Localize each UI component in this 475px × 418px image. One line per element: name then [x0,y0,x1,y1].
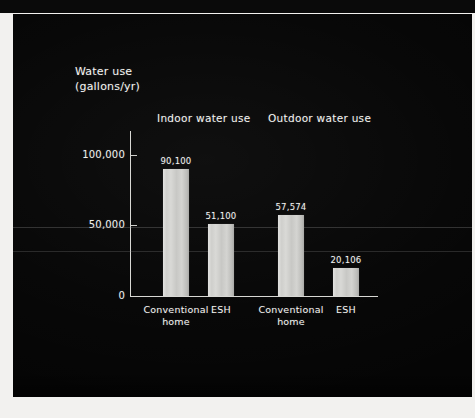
scan-line-artifact-lower [13,251,472,252]
x-axis-line [130,296,378,297]
panel-bottom-shadow [13,371,472,397]
y-tick-label-0: 0 [118,290,125,301]
y-tick-label-100000: 100,000 [82,149,125,160]
bar-value-indoor-esh: 51,100 [191,211,251,221]
bar-chart: Water use (gallons/yr) Indoor water use … [13,14,472,397]
category-label-outdoor-esh: ESH [306,304,386,316]
bar-indoor-conventional-home [163,169,189,296]
bar-value-indoor-conventional-home: 90,100 [146,156,206,166]
group-header-indoor-water-use: Indoor water use [157,112,251,124]
scan-top-edge [0,0,475,13]
bar-value-outdoor-conventional-home: 57,574 [261,202,321,212]
bar-indoor-esh [208,224,234,296]
bar-outdoor-conventional-home [278,215,304,296]
group-header-outdoor-water-use: Outdoor water use [268,112,371,124]
y-axis-title: Water use (gallons/yr) [75,64,140,94]
bar-outdoor-esh [333,268,359,296]
y-tick-mark-50000 [131,225,137,226]
bar-value-outdoor-esh: 20,106 [316,255,376,265]
category-label-indoor-esh: ESH [181,304,261,316]
scan-line-artifact-upper [13,227,472,228]
y-tick-label-50000: 50,000 [89,219,125,230]
scanned-page: Water use (gallons/yr) Indoor water use … [0,0,475,418]
y-tick-mark-100000 [131,155,137,156]
